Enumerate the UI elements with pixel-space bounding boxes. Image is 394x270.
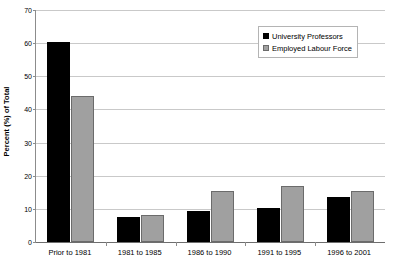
x-axis-category-label: 1996 to 2001 [327,248,371,257]
bar [47,42,70,242]
x-tick-mark [245,242,246,246]
bar [211,191,234,242]
legend-item: Employed Labour Force [263,42,352,54]
bar [71,96,94,242]
x-tick-mark [176,242,177,246]
bar-group [106,10,176,242]
legend-swatch-university-professors [263,33,269,39]
bar [117,217,140,242]
y-tick-mark [33,242,36,243]
y-tick-label: 70 [24,7,32,14]
x-axis-category-label: Prior to 1981 [48,248,91,257]
bar [281,186,304,242]
y-tick-label: 40 [24,106,32,113]
x-axis-category-label: 1991 to 1995 [257,248,301,257]
x-tick-mark [106,242,107,246]
y-tick-label: 20 [24,172,32,179]
y-tick-label: 60 [24,40,32,47]
y-tick-label: 0 [28,239,32,246]
x-axis-category-label: 1981 to 1985 [118,248,162,257]
y-tick-label: 50 [24,73,32,80]
bar [351,191,374,242]
legend-label-employed-labour-force: Employed Labour Force [272,44,352,53]
x-axis-category-label: 1986 to 1990 [188,248,232,257]
bar [327,197,350,242]
y-tick-label: 30 [24,139,32,146]
legend-label-university-professors: University Professors [272,32,343,41]
chart-legend: University Professors Employed Labour Fo… [258,26,358,58]
y-axis-title: Percent (%) of Total [0,0,14,243]
y-tick-label: 10 [24,205,32,212]
bar-group [176,10,246,242]
bar [257,208,280,242]
bar-group [36,10,106,242]
bar [141,215,164,243]
legend-item: University Professors [263,30,352,42]
legend-swatch-employed-labour-force [263,45,269,51]
y-axis-title-label: Percent (%) of Total [3,87,12,157]
bar-chart: Percent (%) of Total 010203040506070 Pri… [0,0,394,270]
x-tick-mark [315,242,316,246]
bar [187,211,210,242]
